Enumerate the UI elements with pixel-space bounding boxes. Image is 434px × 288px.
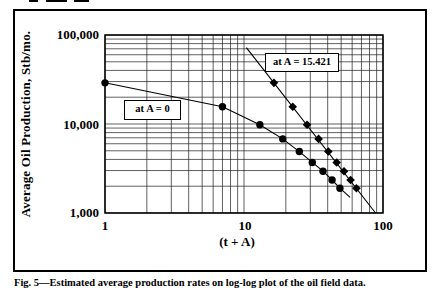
x-tick-label: 10 (225, 218, 265, 234)
annotation-box-at-a-0: at A = 0 (124, 100, 181, 120)
data-point-circle (319, 167, 326, 174)
data-point-circle (336, 184, 343, 191)
x-tick-label: 1 (85, 218, 125, 234)
x-axis-title: (t + A) (196, 234, 278, 250)
y-tick-label: 100,000 (29, 28, 99, 42)
data-point-circle (219, 103, 226, 110)
series-at-a-15-421 (246, 48, 375, 213)
figure-caption: Fig. 5—Estimated average production rate… (14, 277, 432, 288)
data-point-circle (309, 159, 316, 166)
data-point-circle (256, 121, 263, 128)
data-point-circle (296, 148, 303, 155)
data-point-circle (279, 135, 286, 142)
annotation-box-at-a-15421: at A = 15.421 (265, 53, 339, 72)
data-point-circle (328, 176, 335, 183)
y-tick-label: 10,000 (29, 118, 99, 132)
data-point-circle (101, 79, 108, 86)
x-tick-label: 100 (363, 218, 403, 234)
